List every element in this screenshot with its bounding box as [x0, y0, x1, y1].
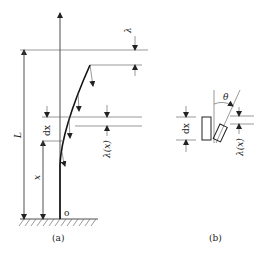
upright-element	[202, 117, 211, 140]
caption-a: (a)	[52, 233, 64, 243]
theta-arc	[214, 102, 233, 106]
load-arrow	[90, 65, 93, 86]
panel-b: θ dx λ(x) (b)	[176, 90, 254, 243]
b-dx-label: dx	[181, 123, 191, 134]
dx-label: dx	[42, 125, 52, 136]
lambda-label: λ	[123, 27, 133, 34]
theta-label: θ	[223, 92, 229, 102]
lambdax-label: λ(x)	[102, 140, 112, 159]
tangent-arrow	[62, 152, 65, 166]
deflected-beam	[60, 65, 90, 219]
ground-hatch	[19, 219, 96, 226]
load-arrow	[69, 118, 70, 138]
cantilever-deflection-diagram: λ dx λ(x) x L o	[0, 0, 264, 255]
load-arrow	[78, 92, 79, 111]
panel-a: λ dx λ(x) x L o	[13, 13, 148, 243]
L-label: L	[13, 132, 23, 139]
caption-b: (b)	[209, 233, 222, 243]
origin-label: o	[64, 208, 69, 218]
b-lambdax-label: λ(x)	[235, 138, 245, 157]
x-label: x	[32, 175, 42, 180]
